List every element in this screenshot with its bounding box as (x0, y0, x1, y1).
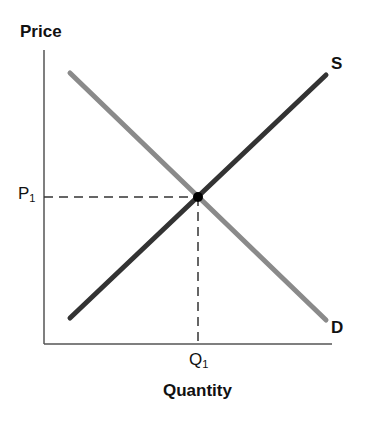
q1-main: Q (189, 350, 202, 369)
q1-label: Q1 (189, 350, 208, 370)
p1-main: P (18, 184, 29, 203)
x-axis-label: Quantity (163, 381, 232, 401)
p1-subscript: 1 (29, 192, 35, 204)
q1-subscript: 1 (202, 358, 208, 370)
p1-label: P1 (18, 184, 35, 204)
supply-demand-diagram (0, 0, 368, 435)
demand-label: D (331, 318, 343, 338)
y-axis-label: Price (20, 22, 62, 42)
supply-label: S (331, 54, 342, 74)
equilibrium-point (193, 192, 203, 202)
